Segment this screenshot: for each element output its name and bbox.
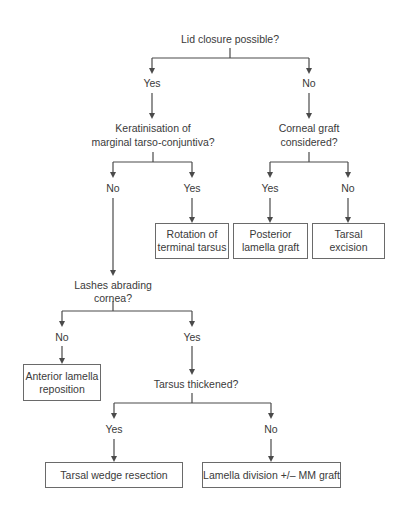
box-tarsal-excision-line2: excision: [330, 241, 368, 254]
connector-lines: [0, 0, 403, 518]
box-anterior-lamella-reposition: Anterior lamellareposition: [23, 364, 101, 401]
box-lamella-division-mm-graft: Lamella division +/– MM graft: [202, 462, 341, 488]
question-keratinisation-line1: Keratinisation of: [115, 122, 190, 135]
question-keratinisation-line2: marginal tarso-conjuntiva?: [91, 136, 214, 149]
label-lid-yes: Yes: [143, 77, 160, 90]
label-keratinisation-yes: Yes: [183, 182, 200, 195]
label-lid-no: No: [302, 77, 315, 90]
question-lashes-line1: Lashes abrading: [74, 279, 152, 292]
box-rotation-line2: terminal tarsus: [158, 241, 227, 254]
label-tarsus-yes: Yes: [105, 423, 122, 436]
box-tarsal-excision-line1: Tarsal: [330, 228, 368, 241]
box-rotation-terminal-tarsus: Rotation ofterminal tarsus: [155, 223, 229, 259]
label-lashes-no: No: [55, 331, 68, 344]
question-lashes-line2: cornea?: [94, 292, 132, 305]
box-posterior-lamella-graft: Posteriorlamella graft: [233, 223, 308, 259]
question-corneal-graft-line1: Corneal graft: [279, 122, 340, 135]
box-posterior-line2: lamella graft: [242, 241, 299, 254]
label-lashes-yes: Yes: [183, 331, 200, 344]
box-tarsal-excision: Tarsalexcision: [312, 223, 385, 259]
label-corneal-yes: Yes: [261, 182, 278, 195]
question-lid-closure: Lid closure possible?: [181, 33, 279, 46]
box-anterior-line2: reposition: [26, 383, 99, 396]
label-keratinisation-no: No: [106, 182, 119, 195]
box-tarsal-wedge-resection: Tarsal wedge resection: [45, 462, 183, 488]
label-corneal-no: No: [341, 182, 354, 195]
box-rotation-line1: Rotation of: [158, 228, 227, 241]
question-corneal-graft-line2: considered?: [280, 136, 337, 149]
label-tarsus-no: No: [264, 423, 277, 436]
box-anterior-line1: Anterior lamella: [26, 370, 99, 383]
question-tarsus-thickened: Tarsus thickened?: [154, 378, 239, 391]
box-posterior-line1: Posterior: [242, 228, 299, 241]
